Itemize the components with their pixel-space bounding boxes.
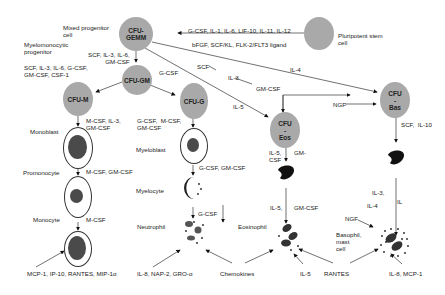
label-ngf-bas: NGF xyxy=(333,101,346,108)
label-eos-gm: GM- xyxy=(294,149,306,156)
label-neutrophil: Neutrophil xyxy=(137,223,165,230)
pluripotent-caption: Pluripotent stem cell xyxy=(338,32,383,46)
label-promonocyte: Promonocyte xyxy=(23,169,59,176)
label-promono-to-mono: M-CSF xyxy=(86,216,106,223)
label-to-gemm-top: G-CSF, IL-1, IL-6, LIF-10, IL-11, IL-12 xyxy=(188,27,291,34)
label-bas-scf: SCF, IL-10 xyxy=(401,121,432,128)
label-myeloblast: Myeloblast xyxy=(136,146,166,153)
label-monoblast-to-promono: M-CSF, GM-CSF xyxy=(86,168,133,175)
cfu-gm-node: CFU-GM xyxy=(122,65,152,95)
label-il5-eos: IL-5 xyxy=(233,103,244,110)
label-gm-to-g: G-CSF xyxy=(159,69,178,76)
basophil-cell-icon xyxy=(376,226,412,260)
eos-precursor-cell-icon xyxy=(275,162,297,184)
label-bas-il3: IL-3, xyxy=(372,189,384,196)
label-il5-bottom: IL-5 xyxy=(300,270,311,277)
label-gm-to-m: SCF, IL-3, IL-6, G-CSF, GM-CSF, CSF-1 xyxy=(24,64,88,78)
label-eos-il5-csf: IL-5, CSF xyxy=(269,149,281,163)
label-m-to-monoblast: M-CSF, IL-3, GM-CSF xyxy=(86,117,121,131)
myelomonocytic-caption: Myelomonocytic progenitor xyxy=(24,41,68,55)
label-monocyte: Monocyte xyxy=(33,216,60,223)
cfu-g-node: CFU-G xyxy=(180,83,208,119)
label-rantes: RANTES xyxy=(324,270,349,277)
label-il4-top: IL-4 xyxy=(290,66,301,73)
label-monoblast: Monoblast xyxy=(30,128,59,135)
myelocyte-cell-icon xyxy=(182,175,204,201)
label-mono-chemokines: MCP-1, IP-10, RANTES, MIP-1α xyxy=(27,270,117,277)
label-bas-il4: IL-4 xyxy=(367,202,378,209)
bas-precursor-cell-icon xyxy=(385,147,407,169)
label-bas-ngf: NGF xyxy=(345,215,358,222)
promonocyte-nucleus xyxy=(70,189,83,203)
label-gemm-to-gm: SCF, IL-3, IL-6, GM-CSF xyxy=(88,51,130,65)
cfu-eos-node: CFU - Eos xyxy=(270,112,300,148)
myeloblast-nucleus xyxy=(187,138,199,152)
cfu-gemm-node: CFU- GEMM xyxy=(119,17,153,51)
pluripotent-stem-cell-node xyxy=(304,17,334,50)
label-chemokines: Chemokines xyxy=(220,270,254,277)
cfu-bas-node: CFU - Bas xyxy=(380,82,410,118)
label-to-gemm-bottom: bFGF, SCF/KL, FLK-2/FLT3 ligand xyxy=(192,41,286,48)
label-eos-gmcsf-2: GM-CSF xyxy=(294,204,318,211)
label-myelocyte: Myelocyte xyxy=(136,187,164,194)
label-il3: IL-3 xyxy=(228,74,239,81)
mixed-progenitor-caption: Mixed progenitor cell xyxy=(63,24,109,38)
label-scf: SCF xyxy=(197,63,209,70)
cfu-m-node: CFU-M xyxy=(63,82,93,116)
neutrophil-cell-icon xyxy=(182,218,206,248)
label-bas-il: IL xyxy=(397,198,402,205)
monocyte-nucleus xyxy=(68,236,86,260)
monoblast-nucleus xyxy=(68,135,87,159)
label-eosinophil: Eosinophil xyxy=(238,223,267,230)
label-neut-chemokines: IL-8, NAP-2, GRO-α xyxy=(137,270,193,277)
label-g-to-myeloblast: G-CSF, M-CSF, GM-CSF xyxy=(137,117,181,131)
label-eos-il5-2: IL-5, xyxy=(270,204,282,211)
label-myeloblast-to-myelocyte: G-CSF, GM-CSF xyxy=(199,164,245,171)
label-basophil: Basophil, mast cell xyxy=(336,231,361,252)
label-myelocyte-to-neut: G-CSF xyxy=(198,210,217,217)
label-bas-chemokines: IL-8, MCP-1 xyxy=(389,270,422,277)
eosinophil-cell-icon xyxy=(276,222,302,254)
label-gmcsf-top: GM-CSF xyxy=(256,85,280,92)
hematopoiesis-diagram: Pluripotent stem cell CFU- GEMM Mixed pr… xyxy=(0,0,445,295)
